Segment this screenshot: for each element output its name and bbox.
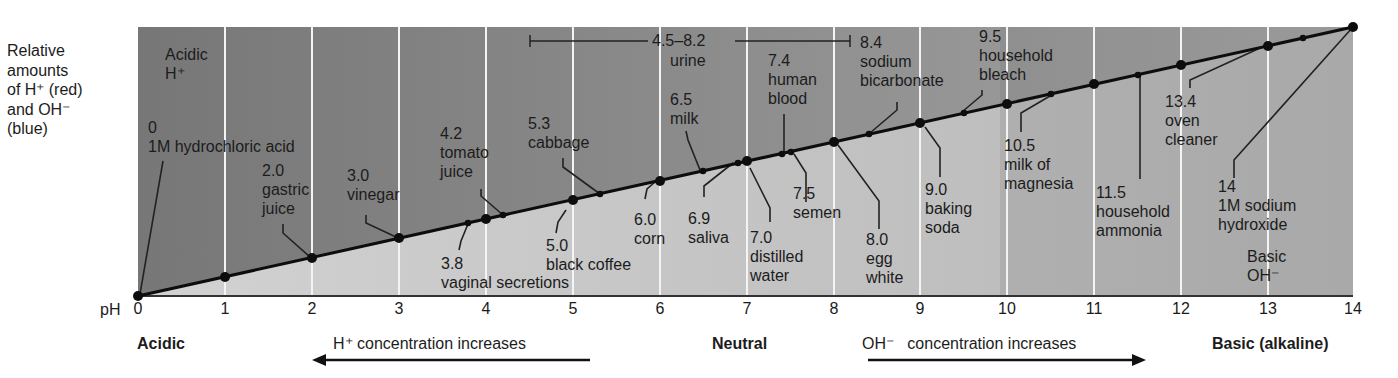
ph-value: 7.5 [793,184,841,203]
tick-10: 10 [992,300,1022,318]
ph-value: 9.0 [925,180,972,199]
substance-name: black coffee [546,255,631,274]
label-egg-white: 8.0 egg white [866,230,903,287]
ph-value: 3.0 [347,166,399,185]
ph-value: 7.4 [768,51,817,70]
label-oven-cleaner: 13.4 oven cleaner [1165,92,1217,149]
label-corn: 6.0 corn [634,210,665,248]
substance-name: bleach [979,65,1053,84]
y-axis-label-line: of H⁺ (red) [7,80,83,100]
ph-value: 8.4 [860,33,944,52]
substance-name: ammonia [1096,221,1170,240]
y-axis-label-line: amounts [7,61,83,81]
acidic-text: Acidic [165,45,208,64]
tick-0: 0 [123,300,153,318]
substance-name: household [979,46,1053,65]
substance-name: soda [925,218,972,237]
label-saliva: 6.9 saliva [688,209,729,247]
neutral-bottom-label: Neutral [712,334,767,353]
h-concentration-label: H⁺ concentration increases [333,334,526,353]
h-plus-text: H⁺ [165,64,208,83]
label-distilled-water: 7.0 distilled water [750,228,803,285]
ph-value: 10.5 [1004,136,1073,155]
ph-value: 6.9 [688,209,729,228]
substance-name: juice [440,162,489,181]
tick-4: 4 [471,300,501,318]
substance-name: baking [925,199,972,218]
tick-2: 2 [297,300,327,318]
substance-name: corn [634,229,665,248]
label-milk-of-magnesia: 10.5 milk of magnesia [1004,136,1073,193]
basic-bottom-label: Basic (alkaline) [1212,334,1329,353]
label-hydrochloric-acid: 0 1M hydrochloric acid [148,118,295,156]
ph-value: 9.5 [979,27,1053,46]
basic-text: Basic [1247,247,1286,266]
urine-label: urine [670,51,706,70]
ph-value: 8.0 [866,230,903,249]
ph-value: 7.0 [750,228,803,247]
ph-value: 5.0 [546,236,631,255]
label-semen: 7.5 semen [793,184,841,222]
label-gastric-juice: 2.0 gastric juice [262,161,309,218]
oh-concentration-label: OH⁻ concentration increases [862,334,1076,353]
substance-name: white [866,268,903,287]
tick-11: 11 [1079,300,1109,318]
tick-6: 6 [645,300,675,318]
tick-12: 12 [1166,300,1196,318]
y-axis-label-line: Relative [7,41,83,61]
label-tomato-juice: 4.2 tomato juice [440,124,489,181]
substance-name: vaginal secretions [441,273,569,292]
ph-value: 4.2 [440,124,489,143]
substance-name: water [750,266,803,285]
substance-name: juice [262,199,309,218]
label-human-blood: 7.4 human blood [768,51,817,108]
tick-7: 7 [732,300,762,318]
substance-name: distilled [750,247,803,266]
substance-name: household [1096,202,1170,221]
acidic-region-label: Acidic H⁺ [165,45,208,83]
substance-name: gastric [262,180,309,199]
substance-name: magnesia [1004,174,1073,193]
label-black-coffee: 5.0 black coffee [546,236,631,274]
substance-name: human [768,70,817,89]
ph-value: 0 [148,118,295,137]
label-milk: 6.5 milk [670,90,698,128]
y-axis-label-line: and OH⁻ [7,100,83,120]
substance-name: sodium [860,52,944,71]
substance-name: oven [1165,111,1217,130]
substance-name: hydroxide [1218,215,1296,234]
oh-minus-text: OH⁻ [1247,266,1286,285]
ph-axis-prefix: pH [100,300,120,319]
ph-value: 13.4 [1165,92,1217,111]
ph-value: 11.5 [1096,183,1170,202]
y-axis-label-line: (blue) [7,119,83,139]
substance-name: semen [793,203,841,222]
label-household-ammonia: 11.5 household ammonia [1096,183,1170,240]
label-vinegar: 3.0 vinegar [347,166,399,204]
substance-name: egg [866,249,903,268]
tick-1: 1 [210,300,240,318]
ph-value: 14 [1218,177,1296,196]
label-baking-soda: 9.0 baking soda [925,180,972,237]
tick-5: 5 [558,300,588,318]
ph-value: 5.3 [528,114,589,133]
label-sodium-hydroxide: 14 1M sodium hydroxide [1218,177,1296,234]
substance-name: 1M hydrochloric acid [148,137,295,156]
substance-name: bicarbonate [860,71,944,90]
substance-name: cabbage [528,133,589,152]
label-household-bleach: 9.5 household bleach [979,27,1053,84]
y-axis-label: Relative amounts of H⁺ (red) and OH⁻ (bl… [7,41,83,139]
substance-name: milk of [1004,155,1073,174]
urine-range-value: 4.5–8.2 [652,31,705,50]
substance-name: cleaner [1165,130,1217,149]
substance-name: blood [768,89,817,108]
substance-name: tomato [440,143,489,162]
substance-name: milk [670,109,698,128]
label-sodium-bicarbonate: 8.4 sodium bicarbonate [860,33,944,90]
basic-region-label: Basic OH⁻ [1247,247,1286,285]
ph-value: 6.5 [670,90,698,109]
substance-name: 1M sodium [1218,196,1296,215]
substance-name: vinegar [347,185,399,204]
substance-name: saliva [688,228,729,247]
ph-value: 6.0 [634,210,665,229]
